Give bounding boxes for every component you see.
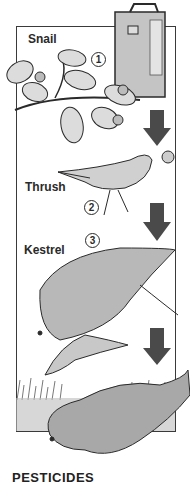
dead-kestrel-icon xyxy=(48,370,190,453)
arrow-down-icon xyxy=(143,328,171,365)
dead-thrush-icon xyxy=(45,335,128,375)
stage-number-2: 2 xyxy=(84,200,99,215)
stage-number-1: 1 xyxy=(91,52,106,67)
pesticide-can-icon xyxy=(115,4,165,97)
kestrel-label: Kestrel xyxy=(24,243,65,257)
stage-number-3: 3 xyxy=(85,233,100,248)
diagram-title: PESTICIDES xyxy=(12,470,94,485)
arrow-down-icon xyxy=(143,110,171,146)
kestrel-icon xyxy=(38,248,178,340)
snail-label: Snail xyxy=(28,32,57,46)
arrow-down-icon xyxy=(143,203,171,241)
thrush-label: Thrush xyxy=(25,180,66,194)
